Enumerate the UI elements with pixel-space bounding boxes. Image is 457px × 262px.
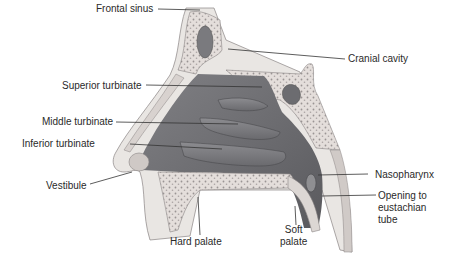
label-middle-turbinate: Middle turbinate xyxy=(42,116,113,128)
label-superior-turbinate: Superior turbinate xyxy=(62,80,142,92)
frontal-sinus-shape xyxy=(197,26,213,58)
label-soft-palate: Soft palate xyxy=(280,224,307,248)
label-cranial-cavity: Cranial cavity xyxy=(348,53,408,65)
vestibule-shape xyxy=(129,153,149,171)
label-frontal-sinus: Frontal sinus xyxy=(96,3,153,15)
label-hard-palate: Hard palate xyxy=(170,236,222,248)
label-nasopharynx: Nasopharynx xyxy=(375,169,434,181)
eustachian-opening-shape xyxy=(306,174,316,192)
label-vestibule: Vestibule xyxy=(46,180,87,192)
label-inferior-turbinate: Inferior turbinate xyxy=(22,138,95,150)
hard-palate-shape xyxy=(158,172,294,232)
label-eustachian-opening: Opening to eustachian tube xyxy=(378,190,427,226)
